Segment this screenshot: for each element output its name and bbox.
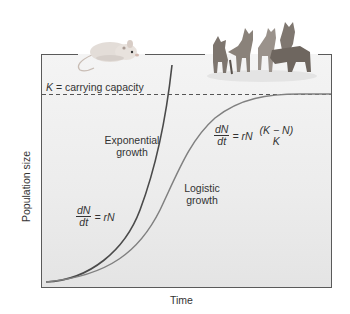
exponential-growth-label: Exponential growth — [104, 134, 160, 158]
logistic-equation: dN dt = rN (K − N) K — [214, 124, 293, 147]
dn-dt-fraction-logistic: dN dt — [214, 124, 229, 147]
exponential-curve — [46, 65, 172, 282]
logistic-line1: Logistic — [180, 182, 224, 194]
k-symbol: K — [46, 81, 53, 93]
exponential-line2: growth — [104, 146, 160, 158]
wolf-pack-illustration — [207, 22, 317, 82]
exponential-equation: dN dt = rN — [76, 205, 115, 228]
equals-rn-logistic: = rN — [232, 130, 252, 142]
logistic-growth-label: Logistic growth — [180, 182, 224, 206]
carrying-capacity-label: K = carrying capacity — [46, 81, 144, 93]
dn-dt-fraction: dN dt — [76, 205, 91, 228]
logistic-line2: growth — [180, 194, 224, 206]
carrying-capacity-text: = carrying capacity — [53, 81, 144, 93]
chart-canvas — [0, 0, 350, 314]
exponential-line1: Exponential — [104, 134, 160, 146]
y-axis-label: Population size — [20, 151, 32, 222]
x-axis-label: Time — [170, 294, 193, 306]
mouse-illustration — [79, 40, 140, 71]
equals-rn: = rN — [94, 211, 114, 223]
k-minus-n-over-k: (K − N) K — [260, 125, 294, 147]
